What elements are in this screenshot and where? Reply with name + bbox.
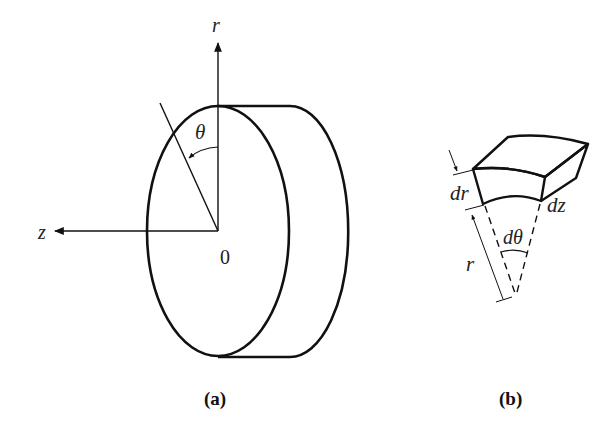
panel-b: dr dz dθ r (b) xyxy=(449,136,588,410)
dtheta-arc xyxy=(501,250,528,253)
r-axis-label: r xyxy=(212,14,220,36)
caption-a: (a) xyxy=(204,388,226,410)
dz-label: dz xyxy=(547,193,566,217)
panel-a: r z 0 θ (a) xyxy=(37,14,348,410)
cylinder-back-rim xyxy=(290,106,348,357)
element-front-face xyxy=(473,168,545,204)
r-label: r xyxy=(466,252,475,276)
caption-b: (b) xyxy=(499,388,522,410)
origin-label: 0 xyxy=(220,246,230,268)
dashed-radius-right xyxy=(516,204,540,296)
dr-tick-top xyxy=(453,170,473,175)
dr-label: dr xyxy=(450,181,470,205)
r-dimension-arrow xyxy=(472,215,503,299)
dashed-radius-left xyxy=(485,206,516,296)
theta-arc-icon xyxy=(189,147,218,158)
theta-label: θ xyxy=(195,120,205,144)
z-axis-label: z xyxy=(37,221,46,243)
figure-canvas: r z 0 θ (a) dr dz dθ r (b) xyxy=(0,0,600,431)
r-dim-tick-bottom xyxy=(496,297,512,302)
dr-tick-bottom xyxy=(465,205,484,210)
radial-line xyxy=(160,103,218,231)
dtheta-label: dθ xyxy=(503,226,523,248)
dr-arrow-icon xyxy=(449,150,457,171)
